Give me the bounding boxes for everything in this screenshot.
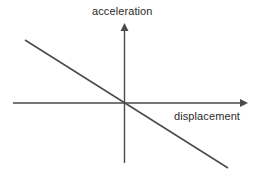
data-line-acceleration-vs-displacement [25,40,228,168]
arrow-right-icon [240,99,248,107]
arrow-up-icon [121,23,129,31]
y-axis-label: acceleration [92,5,153,18]
graph-canvas [0,0,262,176]
x-axis-label: displacement [174,110,240,123]
figure-container: acceleration displacement [0,0,262,176]
